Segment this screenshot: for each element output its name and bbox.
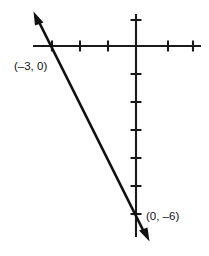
label-x-intercept: (–3, 0): [14, 60, 47, 72]
plot-line-arrow-down-right: [139, 228, 150, 242]
label-y-intercept: (0, –6): [146, 210, 179, 222]
plot-line-arrow-up-left: [34, 12, 44, 26]
plot-line-segment: [39, 21, 145, 232]
x-axis: [33, 41, 201, 52]
y-axis: [131, 14, 142, 237]
graph-canvas: (–3, 0) (0, –6): [0, 0, 209, 256]
coordinate-graph-figure: (–3, 0) (0, –6): [0, 0, 209, 256]
